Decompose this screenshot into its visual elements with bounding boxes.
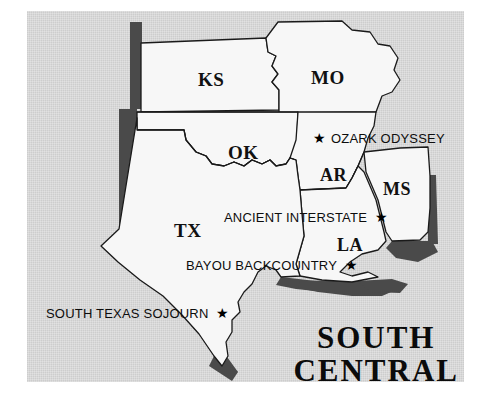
state-label-OK: OK [228,143,259,162]
poi-label: OZARK ODYSSEY [331,132,445,145]
poi-ancient-interstate: ANCIENT INTERSTATE ★ [224,210,388,224]
map-text-layer: KS MO OK AR MS TX LA ★ OZARK ODYSSEY ANC… [0,0,481,406]
region-title: SOUTH CENTRAL [293,322,459,388]
poi-bayou-backcountry: BAYOU BACKCOUNTRY ★ [186,258,358,272]
state-label-AR: AR [320,166,347,184]
star-marker-icon: ★ [216,306,229,320]
star-marker-icon: ★ [345,258,358,272]
state-label-KS: KS [198,70,224,89]
map-figure: KS MO OK AR MS TX LA ★ OZARK ODYSSEY ANC… [0,0,481,406]
poi-label: BAYOU BACKCOUNTRY [186,259,337,272]
poi-south-texas-sojourn: SOUTH TEXAS SOJOURN ★ [46,306,229,320]
poi-label: SOUTH TEXAS SOJOURN [46,307,208,320]
poi-ozark-odyssey: ★ OZARK ODYSSEY [313,131,445,145]
region-title-line-2: CENTRAL [293,355,459,388]
star-marker-icon: ★ [313,131,326,145]
state-label-LA: LA [337,236,363,254]
star-marker-icon: ★ [375,210,388,224]
state-label-TX: TX [174,221,201,240]
region-title-line-1: SOUTH [293,322,459,355]
state-label-MO: MO [311,68,345,87]
poi-label: ANCIENT INTERSTATE [224,211,367,224]
state-label-MS: MS [383,180,411,198]
